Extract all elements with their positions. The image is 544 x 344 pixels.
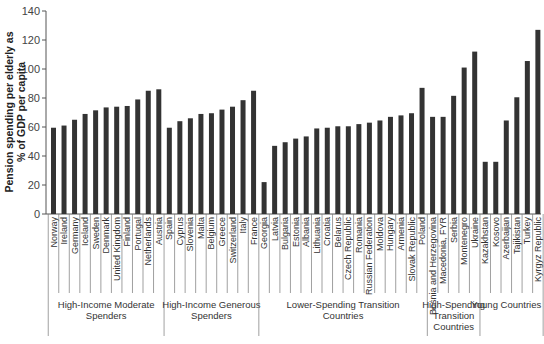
category-label: Austria [154, 217, 164, 245]
bar [283, 142, 288, 214]
category-label: Belgium [206, 217, 216, 250]
category-label: Albania [301, 217, 311, 247]
bar [167, 128, 172, 214]
category-label: Tajikistan [512, 217, 522, 254]
y-tick-label: 20 [28, 179, 40, 191]
bar [272, 146, 277, 214]
category-label: Iceland [80, 217, 90, 246]
group-label-line: Spenders [86, 310, 127, 321]
category-label: Czech Republic [343, 217, 353, 281]
bar [83, 114, 88, 214]
y-tick-label: 0 [34, 208, 40, 220]
y-tick-label: 40 [28, 150, 40, 162]
bar [230, 107, 235, 214]
category-label: Malta [196, 217, 206, 239]
bar [241, 100, 246, 214]
category-label: Bulgaria [280, 217, 290, 250]
bar [198, 114, 203, 214]
bar [335, 126, 340, 214]
category-label: Greece [217, 217, 227, 247]
category-label: France [249, 217, 259, 245]
category-label: Serbia [449, 217, 459, 243]
group-label-line: High-Income Moderate [58, 299, 155, 310]
bar [325, 128, 330, 214]
category-label: Poland [417, 217, 427, 245]
bar [62, 126, 67, 214]
bar [251, 91, 256, 214]
group-label-line: High-Income Generous [162, 299, 260, 310]
category-label: Slovenia [185, 217, 195, 252]
category-label: Ireland [59, 217, 69, 245]
category-label: Latvia [270, 217, 280, 241]
group-label-line: Countries [323, 310, 364, 321]
bar [504, 120, 509, 214]
bar [451, 96, 456, 214]
category-label: Germany [70, 217, 80, 255]
category-label: Sweden [91, 217, 101, 250]
bar [430, 117, 435, 214]
bar [156, 89, 161, 214]
bar [420, 88, 425, 214]
y-tick-label: 120 [22, 34, 40, 46]
category-label: Finland [122, 217, 132, 247]
category-label: Croatia [322, 217, 332, 246]
category-label: Portugal [133, 217, 143, 251]
bar [51, 128, 56, 214]
bar [219, 110, 224, 214]
bar [535, 30, 540, 214]
group-label-line: Transition [433, 310, 474, 321]
bar [72, 120, 77, 214]
category-label: Georgia [259, 217, 269, 249]
category-label: Spain [164, 217, 174, 240]
category-label: Kazakhstan [480, 217, 490, 264]
bar [441, 117, 446, 214]
y-tick-label: 80 [28, 92, 40, 104]
category-label: Slovak Republic [407, 217, 417, 282]
bar [483, 162, 488, 214]
category-label: Montenegro [459, 217, 469, 265]
y-axis-title: Pension spending per elderly as% of GDP … [3, 31, 27, 192]
category-label: Kyrgyz Republic [533, 217, 543, 283]
bar [293, 139, 298, 214]
group-label-line: Countries [433, 321, 474, 332]
bar [346, 126, 351, 214]
bar [125, 106, 130, 214]
pension-spending-bar-chart: 020406080100120140 Pension spending per … [0, 0, 544, 344]
bar [314, 128, 319, 214]
group-label-line: Young Countries [471, 299, 541, 310]
bar [135, 99, 140, 214]
category-label: Ukraine [470, 217, 480, 248]
bar [367, 123, 372, 214]
category-label: Switzerland [228, 217, 238, 264]
category-label: Lithuania [312, 217, 322, 254]
bar [514, 97, 519, 214]
category-label: United Kingdom [112, 217, 122, 281]
bar [304, 136, 309, 214]
y-axis-title-line: % of GDP per capita [15, 62, 27, 162]
category-label: Armenia [396, 217, 406, 251]
bar [209, 113, 214, 214]
category-label: Moldova [375, 217, 385, 251]
y-tick-label: 140 [22, 5, 40, 17]
category-label: Macedonia, FYR [438, 217, 448, 285]
y-axis-title-line: Pension spending per elderly as [3, 31, 15, 192]
bar [525, 61, 530, 214]
bar [104, 107, 109, 214]
category-label: Netherlands [143, 217, 153, 266]
bar [398, 115, 403, 214]
bar [409, 113, 414, 214]
bar [493, 162, 498, 214]
group-labels: High-Income ModerateSpendersHigh-Income … [48, 293, 543, 336]
bar [146, 91, 151, 214]
group-label-line: Spenders [191, 310, 232, 321]
category-label: Denmark [101, 217, 111, 254]
category-label: Belarus [333, 217, 343, 248]
category-label: Hungary [385, 217, 395, 252]
y-tick-label: 60 [28, 121, 40, 133]
bar [93, 110, 98, 214]
bar [462, 68, 467, 214]
bar [356, 124, 361, 214]
category-label: Estonia [291, 217, 301, 247]
bar [262, 182, 267, 214]
category-label: Cyprus [175, 217, 185, 246]
